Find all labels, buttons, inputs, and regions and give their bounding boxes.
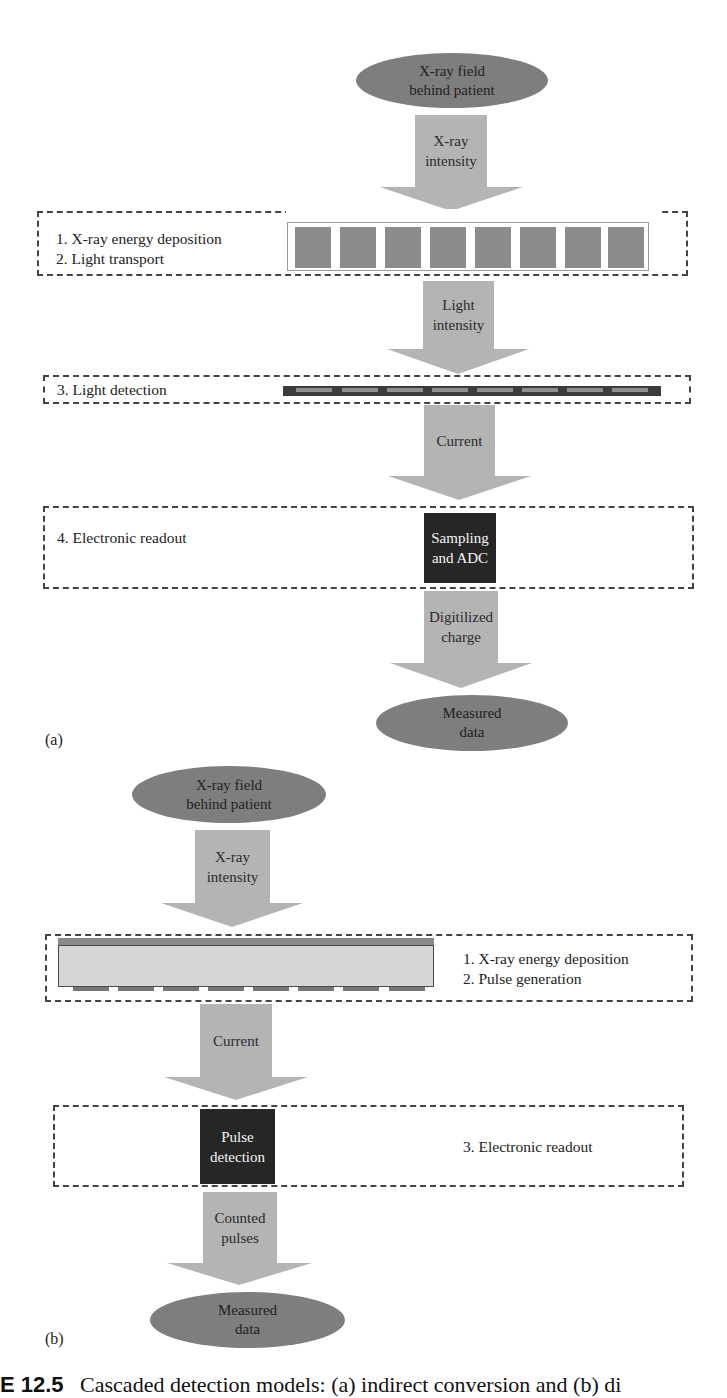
photodetector-cell [432,388,468,392]
stage-label-light-detection: 3. Light detection [57,380,167,400]
arrow-label-line1: X-ray [434,131,469,151]
arrow-head [390,663,532,688]
source-label-line2: behind patient [409,81,494,100]
arrow-label-line2: intensity [207,867,259,887]
pixel-pad [208,987,244,991]
arrow-label-line2: intensity [433,315,485,335]
scintillator-element [520,227,556,268]
source-label-line1: X-ray field [196,776,262,795]
digitized-charge-arrow-shaft: Digitilized charge [424,591,498,663]
scintillator-element [385,227,421,268]
output-label-line2: data [235,1320,260,1339]
stage-label-electronic-readout: 4. Electronic readout [57,528,187,548]
pixel-pad [73,987,109,991]
arrow-down-icon: Counted pulses [167,1192,312,1285]
pixel-pad [389,987,425,991]
measured-data-ellipse: Measured data [376,695,568,751]
readout-label-line2: detection [210,1147,265,1167]
photodetector-cell [567,388,603,392]
arrow-head [161,903,303,927]
stage-label-light-transport: 2. Light transport [56,249,164,269]
arrow-down-icon: Digitilized charge [390,591,532,688]
photodetector-cell [612,388,648,392]
stage-label-xray-deposition: 1. X-ray energy deposition [56,229,222,249]
pixel-pad [163,987,199,991]
panel-b-tag: (b) [45,1330,64,1348]
photodetector-cell [296,388,332,392]
arrow-head [388,476,531,500]
arrow-down-icon: Light intensity [387,281,529,374]
stage-label-pulse-generation: 2. Pulse generation [463,969,581,989]
arrow-head [387,349,529,374]
readout-label-line1: Pulse [221,1127,254,1147]
xray-intensity-arrow-shaft: X-ray intensity [415,115,487,187]
arrow-label-line1: Counted [215,1208,266,1228]
scintillator-element [340,227,376,268]
stage-label-xray-deposition: 1. X-ray energy deposition [463,949,629,969]
arrow-label-line1: Current [437,431,483,451]
output-label-line2: data [460,723,485,742]
pixel-pad [298,987,334,991]
readout-label-line1: Sampling [431,528,489,548]
scintillator-element [608,227,644,268]
pixel-pad [118,987,154,991]
output-label-line1: Measured [442,704,501,723]
arrow-head [164,1077,308,1100]
arrow-head [380,187,523,211]
arrow-down-icon: X-ray intensity [380,115,523,211]
arrow-down-icon: X-ray intensity [161,830,303,927]
arrow-label-line1: X-ray [215,847,250,867]
photodetector-cell [477,388,513,392]
counted-pulses-arrow-shaft: Counted pulses [203,1192,277,1263]
scintillator-element [295,227,331,268]
border-gap [286,209,659,214]
light-intensity-arrow-shaft: Light intensity [423,281,494,349]
stage-label-electronic-readout: 3. Electronic readout [463,1137,593,1157]
xray-field-source-ellipse: X-ray field behind patient [132,766,326,823]
measured-data-ellipse: Measured data [150,1292,345,1348]
output-label-line1: Measured [218,1301,277,1320]
scintillator-element [475,227,511,268]
current-arrow-shaft: Current [424,405,495,476]
photodetector-array [283,386,661,396]
pulse-detection-box: Pulse detection [200,1109,275,1184]
arrow-label-line2: charge [441,627,481,647]
arrow-label-line2: intensity [425,151,477,171]
figure-number: E 12.5 [0,1372,64,1397]
arrow-label-line2: pulses [221,1228,259,1248]
panel-a-tag: (a) [45,731,63,749]
pixel-pad [343,987,379,991]
arrow-down-icon: Current [164,1004,308,1100]
source-label-line1: X-ray field [419,62,485,81]
arrow-head [167,1263,312,1285]
caption-text: Cascaded detection models: (a) indirect … [80,1372,621,1397]
top-electrode [58,938,434,945]
sampling-adc-box: Sampling and ADC [424,513,496,583]
xray-intensity-arrow-shaft: X-ray intensity [195,830,270,903]
photodetector-cell [342,388,378,392]
source-label-line2: behind patient [186,795,271,814]
pixel-pad [253,987,289,991]
arrow-label-line1: Digitilized [429,607,493,627]
scintillator-element [565,227,601,268]
figure-caption: E 12.5 Cascaded detection models: (a) in… [0,1372,621,1398]
arrow-label-line1: Light [442,295,475,315]
xray-field-source-ellipse: X-ray field behind patient [356,53,548,108]
photoconductor-slab [58,945,434,987]
photodetector-cell [522,388,558,392]
readout-label-line2: and ADC [432,548,488,568]
photodetector-cell [387,388,423,392]
arrow-down-icon: Current [388,405,531,500]
current-arrow-shaft: Current [200,1004,272,1077]
arrow-label-line1: Current [213,1031,259,1051]
scintillator-element [430,227,466,268]
